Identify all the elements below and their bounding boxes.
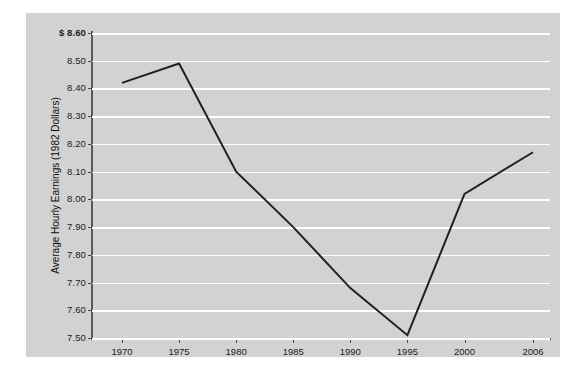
series-polyline bbox=[122, 64, 533, 336]
x-tick-mark bbox=[533, 339, 534, 343]
x-tick-mark bbox=[293, 339, 294, 343]
x-tick-mark bbox=[407, 339, 408, 343]
y-tick-label: 7.70 bbox=[22, 277, 86, 288]
x-tick-mark bbox=[465, 339, 466, 343]
chart-figure: Average Hourly Earnings (1982 Dollars) $… bbox=[0, 0, 586, 380]
x-tick-mark bbox=[236, 339, 237, 343]
y-tick-label: 8.10 bbox=[22, 166, 86, 177]
x-tick-label: 2006 bbox=[522, 346, 543, 357]
x-tick-label: 1990 bbox=[340, 346, 361, 357]
x-tick-label: 1980 bbox=[226, 346, 247, 357]
x-tick-mark bbox=[122, 339, 123, 343]
y-tick-label: 7.50 bbox=[22, 332, 86, 343]
y-tick-label: 7.60 bbox=[22, 304, 86, 315]
y-tick-label: 8.30 bbox=[22, 110, 86, 121]
gridline bbox=[92, 338, 550, 340]
x-tick-label: 1970 bbox=[111, 346, 132, 357]
x-tick-label: 1975 bbox=[169, 346, 190, 357]
y-tick-label: 7.80 bbox=[22, 249, 86, 260]
y-axis-title: Average Hourly Earnings (1982 Dollars) bbox=[47, 33, 65, 338]
data-series-line bbox=[92, 33, 550, 338]
y-tick-label: 8.40 bbox=[22, 82, 86, 93]
x-tick-mark bbox=[179, 339, 180, 343]
y-tick-label: 7.90 bbox=[22, 221, 86, 232]
x-tick-label: 1995 bbox=[397, 346, 418, 357]
x-tick-label: 2000 bbox=[454, 346, 475, 357]
y-tick-label: $ 8.60 bbox=[22, 27, 86, 38]
plot-area bbox=[92, 33, 550, 338]
x-tick-mark bbox=[350, 339, 351, 343]
y-tick-label: 8.50 bbox=[22, 55, 86, 66]
y-tick-label: 8.00 bbox=[22, 193, 86, 204]
x-tick-label: 1985 bbox=[283, 346, 304, 357]
y-tick-label: 8.20 bbox=[22, 138, 86, 149]
